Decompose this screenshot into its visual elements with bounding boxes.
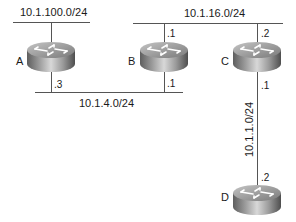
router-a-icon [27,42,75,72]
router-c-icon [233,42,281,72]
iface-d-net-cd: .2 [261,172,269,184]
router-d-name: D [221,191,229,203]
iface-a-net-ab: .3 [54,79,62,91]
iface-c-net-bc: .2 [261,28,269,40]
network-label-10-1-1: 10.1.1.0/24 [243,102,255,157]
router-b-name: B [128,55,135,67]
router-a-name: A [16,55,23,67]
iface-b-net-ab: .1 [167,78,175,90]
router-d-icon [233,185,281,215]
network-label-10-1-16: 10.1.16.0/24 [184,7,245,19]
iface-c-net-cd: .1 [261,80,269,92]
network-label-10-1-100: 10.1.100.0/24 [20,6,87,18]
network-label-10-1-4: 10.1.4.0/24 [79,97,134,109]
iface-b-net-bc: .1 [167,28,175,40]
router-b-icon [140,42,188,72]
router-c-name: C [221,55,229,67]
